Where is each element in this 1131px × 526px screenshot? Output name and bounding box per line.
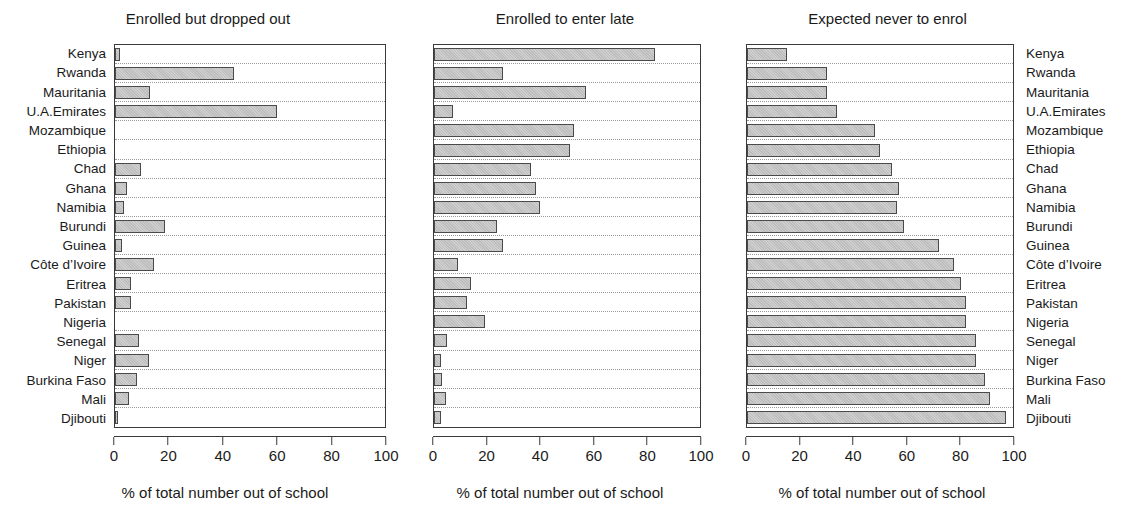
x-axis-tick-labels: 020406080100 xyxy=(433,446,701,468)
plot-area xyxy=(746,44,1014,428)
x-axis-tick xyxy=(852,437,853,445)
y-axis-category-label: U.A.Emirates xyxy=(0,102,110,121)
x-axis-tick xyxy=(331,437,332,445)
x-axis-tick-label: 20 xyxy=(791,446,808,466)
bar xyxy=(434,144,570,157)
y-axis-category-label: Mali xyxy=(1020,390,1130,409)
bar xyxy=(747,354,976,367)
bar-row xyxy=(115,102,385,121)
bar xyxy=(434,105,453,118)
bar-row xyxy=(747,331,1013,350)
y-axis-category-label: Guinea xyxy=(1020,236,1130,255)
bar-row xyxy=(747,255,1013,274)
y-axis-category-label: Eritrea xyxy=(0,274,110,293)
bar xyxy=(115,334,139,347)
x-axis-tick xyxy=(906,437,907,445)
bar-row xyxy=(747,198,1013,217)
bar xyxy=(747,163,892,176)
panel-title: Enrolled to enter late xyxy=(422,10,708,28)
y-axis-category-label: Niger xyxy=(1020,351,1130,370)
bar-row xyxy=(115,121,385,140)
bar-row xyxy=(115,198,385,217)
bar-row xyxy=(115,236,385,255)
y-axis-category-label: Burkina Faso xyxy=(1020,370,1130,389)
bar-row xyxy=(747,236,1013,255)
bar-rows xyxy=(115,45,385,427)
x-axis-title: % of total number out of school xyxy=(60,483,390,502)
bar xyxy=(115,239,122,252)
bar xyxy=(434,373,442,386)
bar-row xyxy=(747,121,1013,140)
bar xyxy=(115,354,149,367)
bar xyxy=(115,105,277,118)
y-axis-category-label: Mozambique xyxy=(0,121,110,140)
x-axis-tick xyxy=(647,437,648,445)
bar-row xyxy=(434,217,700,236)
bar xyxy=(434,239,503,252)
bar-row xyxy=(434,102,700,121)
bar-rows xyxy=(434,45,700,427)
x-axis-tick xyxy=(700,437,701,445)
bar xyxy=(115,296,131,309)
bar xyxy=(747,220,904,233)
x-axis-tick-label: 60 xyxy=(269,446,286,466)
bar xyxy=(747,67,827,80)
bar-row xyxy=(747,45,1013,64)
bar-row xyxy=(747,293,1013,312)
bar xyxy=(747,334,976,347)
x-axis-tick xyxy=(432,437,433,445)
x-axis-tick xyxy=(113,437,114,445)
bar xyxy=(434,182,536,195)
x-axis-tick-label: 100 xyxy=(373,446,398,466)
x-axis-title: % of total number out of school xyxy=(390,483,730,502)
y-axis-category-label: Namibia xyxy=(0,198,110,217)
bar-row xyxy=(434,274,700,293)
y-axis-category-label: Djibouti xyxy=(0,409,110,428)
bar-row xyxy=(747,274,1013,293)
y-axis-category-label: Ghana xyxy=(0,178,110,197)
bar-row xyxy=(115,312,385,331)
plot-area xyxy=(433,44,701,428)
bar-row xyxy=(115,217,385,236)
x-axis-tick xyxy=(799,437,800,445)
bar xyxy=(115,86,150,99)
bar-row xyxy=(434,83,700,102)
bar-row xyxy=(434,140,700,159)
bar xyxy=(747,277,961,290)
y-axis-category-label: U.A.Emirates xyxy=(1020,102,1130,121)
bar-row xyxy=(115,274,385,293)
y-axis-category-label: Senegal xyxy=(1020,332,1130,351)
bar xyxy=(434,258,458,271)
x-axis-tick xyxy=(385,437,386,445)
bar xyxy=(434,163,531,176)
x-axis-tick-label: 80 xyxy=(952,446,969,466)
bar xyxy=(115,201,124,214)
x-axis-tick-label: 40 xyxy=(532,446,549,466)
bar-row xyxy=(434,160,700,179)
y-axis-category-label: Mauritania xyxy=(0,82,110,101)
bar-row xyxy=(434,198,700,217)
bar-row xyxy=(434,293,700,312)
bar xyxy=(115,373,137,386)
bar xyxy=(434,201,540,214)
bar-row xyxy=(115,255,385,274)
bar xyxy=(747,315,966,328)
panel-enrolled-but-dropped-out: Enrolled but dropped out KenyaRwandaMaur… xyxy=(0,0,400,526)
x-axis-tick-label: 100 xyxy=(1001,446,1026,466)
bar-row xyxy=(115,293,385,312)
bar xyxy=(115,392,129,405)
x-axis-tick xyxy=(168,437,169,445)
y-axis-category-label: Ethiopia xyxy=(1020,140,1130,159)
bar xyxy=(434,392,446,405)
bar xyxy=(434,334,447,347)
figure-multi-panel-bar-chart: Enrolled but dropped out KenyaRwandaMaur… xyxy=(0,0,1131,526)
x-axis-tick-label: 80 xyxy=(639,446,656,466)
bar xyxy=(434,354,441,367)
bar xyxy=(115,258,154,271)
bar xyxy=(747,296,966,309)
y-axis-category-label: Djibouti xyxy=(1020,409,1130,428)
x-axis-tick-label: 20 xyxy=(478,446,495,466)
bar xyxy=(115,163,141,176)
bar-row xyxy=(747,217,1013,236)
y-axis-category-label: Mozambique xyxy=(1020,121,1130,140)
